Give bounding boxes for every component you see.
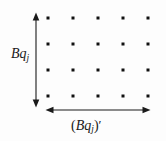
label-subscript-j: j (27, 53, 30, 63)
figure-container: Bqj (Bqj)′ (0, 0, 166, 141)
lattice-point (47, 69, 50, 72)
lattice-point (97, 69, 100, 72)
lattice-point (147, 95, 150, 98)
lattice-point (122, 43, 125, 46)
lattice-point (97, 43, 100, 46)
lattice-point (122, 17, 125, 20)
lattice-point (147, 43, 150, 46)
label-variable-q: q (20, 46, 27, 61)
horizontal-dimension-label: (Bqj)′ (71, 118, 101, 135)
lattice-point (72, 95, 75, 98)
lattice-point (72, 43, 75, 46)
lattice-point (72, 69, 75, 72)
lattice-point (47, 95, 50, 98)
lattice-point (147, 69, 150, 72)
lattice-point (97, 17, 100, 20)
label-base-b: B (76, 118, 85, 133)
lattice-point (47, 17, 50, 20)
vertical-dimension-label: Bqj (11, 47, 29, 63)
lattice-point (122, 69, 125, 72)
lattice-point (47, 43, 50, 46)
lattice-point (147, 17, 150, 20)
lattice-point (122, 95, 125, 98)
label-prime-mark: ′ (99, 117, 102, 132)
lattice-point (97, 95, 100, 98)
label-base-b: B (11, 46, 20, 61)
lattice-point (72, 17, 75, 20)
